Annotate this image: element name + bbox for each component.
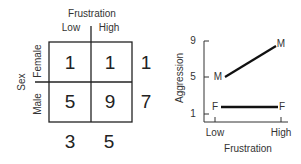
y-tick-9: 9 [188,36,198,46]
series-label-m-low: M [213,72,223,82]
y-tick-5: 5 [188,72,198,82]
y-axis-label: Aggression [175,53,185,103]
chart-lines [0,0,301,164]
x-axis-label: Frustration [222,144,274,154]
series-label-m-high: M [276,39,286,49]
series-label-f-high: F [277,102,287,112]
x-tick-high: High [268,128,294,138]
y-tick-1: 1 [188,109,198,119]
x-tick-low: Low [203,128,227,138]
series-label-f-low: F [210,102,220,112]
